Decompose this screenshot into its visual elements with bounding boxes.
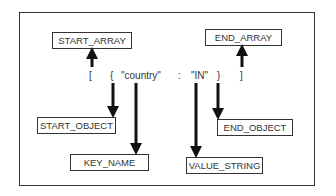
arrows-layer xyxy=(0,0,336,196)
